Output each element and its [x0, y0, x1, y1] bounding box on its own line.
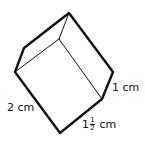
prism-outline: [15, 13, 113, 133]
width-fraction: 12: [90, 117, 95, 132]
length-label: 2 cm: [7, 102, 34, 113]
fraction-denominator: 2: [90, 125, 94, 132]
width-whole: 1: [82, 118, 89, 131]
prism-diagram: [0, 0, 145, 142]
height-label: 1 cm: [112, 82, 139, 93]
width-unit: cm: [100, 118, 117, 131]
fraction-numerator: 1: [90, 117, 94, 124]
width-label: 112 cm: [82, 117, 116, 132]
